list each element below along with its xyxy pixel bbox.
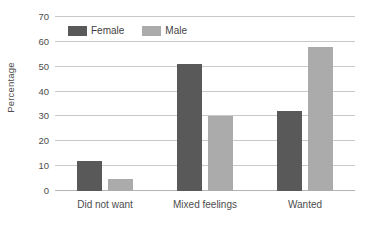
chart-legend: Female Male xyxy=(68,25,187,36)
legend-label-female: Female xyxy=(91,25,124,36)
plot-area xyxy=(55,17,355,191)
bar-male-wanted[interactable] xyxy=(308,47,333,191)
legend-item-male[interactable]: Male xyxy=(142,25,187,36)
bar-female-mixed-feelings[interactable] xyxy=(177,64,202,191)
legend-item-female[interactable]: Female xyxy=(68,25,124,36)
y-tick-label-70: 70 xyxy=(27,12,49,22)
bar-male-did-not-want[interactable] xyxy=(108,179,133,191)
bar-chart: Percentage 010203040506070 Did not wantM… xyxy=(0,0,367,225)
legend-swatch-male-icon xyxy=(142,26,161,36)
bar-female-wanted[interactable] xyxy=(277,111,302,191)
legend-label-male: Male xyxy=(165,25,187,36)
bar-male-mixed-feelings[interactable] xyxy=(208,116,233,191)
y-tick-label-60: 60 xyxy=(27,37,49,47)
y-tick-label-50: 50 xyxy=(27,62,49,72)
bars-layer xyxy=(55,17,355,191)
bar-female-did-not-want[interactable] xyxy=(77,161,102,191)
y-tick-label-10: 10 xyxy=(27,161,49,171)
y-tick-label-20: 20 xyxy=(27,136,49,146)
x-axis-label-wanted: Wanted xyxy=(245,199,365,211)
y-tick-label-30: 30 xyxy=(27,111,49,121)
y-axis-title: Percentage xyxy=(0,0,22,200)
y-tick-label-40: 40 xyxy=(27,87,49,97)
y-tick-label-0: 0 xyxy=(27,186,49,196)
legend-swatch-female-icon xyxy=(68,26,87,36)
